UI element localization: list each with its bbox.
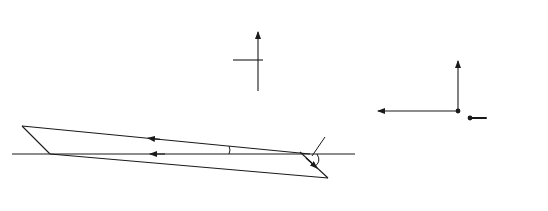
line-ob xyxy=(22,126,310,154)
line-bp xyxy=(22,126,50,154)
panel-a-figure xyxy=(12,126,355,178)
diagram-canvas xyxy=(0,0,548,211)
panel-b-figure xyxy=(378,61,487,120)
line-pa xyxy=(50,154,328,178)
ob-arrow xyxy=(148,138,160,139)
alpha-angle-arc xyxy=(229,146,230,154)
compass-icon xyxy=(233,32,263,91)
angle-45-leader xyxy=(312,137,325,156)
